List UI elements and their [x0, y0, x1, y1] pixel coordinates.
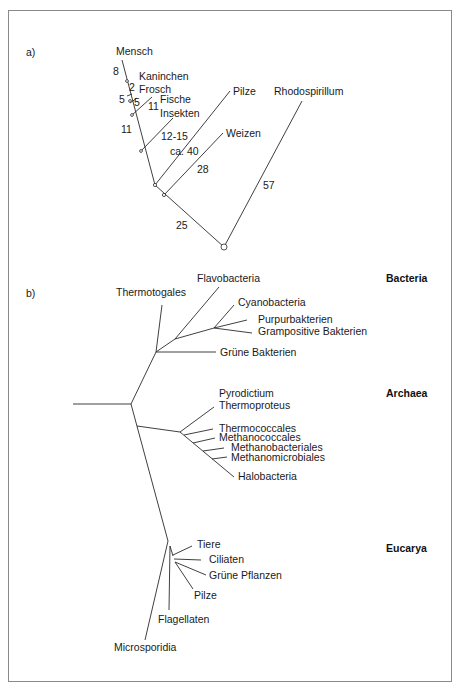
branch-thermotogales	[156, 305, 162, 352]
branch-bacteria-inner	[156, 339, 175, 352]
taxon-kaninchen: Kaninchen	[139, 70, 189, 82]
branch-methanomicrobiales	[212, 457, 227, 459]
taxon-gruene-pflanzen: Grüne Pflanzen	[209, 569, 282, 581]
panel-b: b) Bacteria Archaea Eucarya	[26, 272, 428, 653]
distance-weizen: 28	[197, 163, 209, 175]
taxon-halobacteria: Halobacteria	[238, 470, 297, 482]
branch-tiere	[173, 546, 192, 555]
phylogenetic-figure: a) Mensch Kaninchen Frosch Fische Insekt…	[0, 0, 460, 688]
branch-eucarya-stem	[131, 404, 168, 541]
distance-fische: 11	[148, 100, 159, 112]
taxon-grampositive: Grampositive Bakterien	[258, 325, 367, 337]
taxon-mensch: Mensch	[116, 45, 153, 57]
branch-thermoproteus	[180, 407, 214, 432]
node-frosch	[129, 100, 132, 103]
domain-bacteria: Bacteria	[386, 272, 428, 284]
taxon-thermoproteus: Thermoproteus	[219, 399, 290, 411]
distance-insekten: 12-15	[161, 130, 188, 142]
domain-archaea: Archaea	[386, 387, 428, 399]
taxon-flavobacteria: Flavobacteria	[197, 272, 260, 284]
node-kaninchen	[126, 80, 129, 83]
branch-weizen	[164, 133, 223, 195]
taxon-pilze-b: Pilze	[194, 589, 217, 601]
taxon-purpurbakterien: Purpurbakterien	[258, 313, 333, 325]
branch-methanococcales	[193, 438, 215, 443]
taxon-ciliaten: Ciliaten	[209, 553, 244, 565]
distance-11: 11	[121, 123, 132, 135]
node-pilze	[153, 183, 156, 186]
branch-bacteria-inner2	[175, 328, 214, 339]
distance-mensch: 8	[113, 65, 119, 77]
taxon-tiere: Tiere	[197, 538, 221, 550]
taxon-pyrodictium: Pyrodictium	[219, 387, 274, 399]
branch-ciliaten	[174, 559, 201, 560]
taxon-fische: Fische	[160, 93, 191, 105]
panel-a: a) Mensch Kaninchen Frosch Fische Insekt…	[26, 45, 344, 250]
distance-5a: 5	[119, 93, 125, 105]
branch-methanobacteriales	[203, 448, 224, 451]
distance-rhodospirillum: 57	[263, 179, 275, 191]
panel-a-label: a)	[26, 46, 35, 58]
distance-pilze: ca. 40	[170, 145, 199, 157]
node-insekten	[140, 150, 143, 153]
branch-cyanobacteria	[214, 305, 234, 328]
distance-root: 25	[176, 219, 188, 231]
taxon-pilze: Pilze	[233, 85, 256, 97]
branch-grampositive	[214, 328, 252, 333]
taxon-gruene-bakterien: Grüne Bakterien	[220, 346, 297, 358]
branch-bacteria-stem	[131, 352, 156, 404]
distance-kaninchen: 2	[129, 81, 135, 93]
taxon-cyanobacteria: Cyanobacteria	[238, 296, 306, 308]
taxon-rhodospirillum: Rhodospirillum	[274, 85, 344, 97]
branch-microsporidia	[145, 541, 168, 640]
node-weizen	[162, 193, 165, 196]
panel-b-label: b)	[26, 287, 35, 299]
taxon-thermotogales: Thermotogales	[116, 286, 186, 298]
branch-thermococcales	[184, 429, 213, 435]
node-fische	[131, 114, 134, 117]
branch-rhodospirillum	[224, 101, 302, 247]
node-root	[221, 244, 227, 250]
branch-archaea-stem	[137, 426, 180, 432]
branch-flagellaten	[169, 546, 170, 610]
taxon-flagellaten: Flagellaten	[158, 613, 210, 625]
domain-eucarya: Eucarya	[386, 542, 427, 554]
taxon-microsporidia: Microsporidia	[114, 641, 177, 653]
taxon-weizen: Weizen	[226, 127, 261, 139]
branch-crown	[170, 546, 173, 556]
taxon-methanomicrobiales: Methanomicrobiales	[231, 451, 325, 463]
branch-purpurbakterien	[214, 320, 247, 328]
distance-frosch: 5	[134, 96, 140, 108]
taxon-insekten: Insekten	[160, 107, 200, 119]
